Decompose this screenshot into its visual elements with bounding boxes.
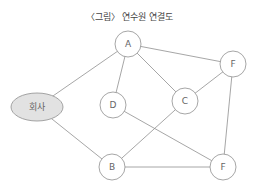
node-b: B [99,154,125,180]
node-c-label: C [182,96,188,106]
node-company-label: 회사 [29,102,46,112]
node-f-bottom-label: F [220,162,225,172]
node-a-label: A [125,39,132,49]
node-d-label: D [110,100,117,110]
edge-f-top-f-bottom [223,64,233,167]
node-d: D [100,92,126,118]
node-company: 회사 [11,93,63,121]
node-b-label: B [109,162,115,172]
node-f-top-label: F [230,59,235,69]
edges [37,44,233,167]
node-c: C [172,88,198,114]
node-a: A [115,31,141,57]
edge-d-f-bottom [113,105,223,167]
node-f-bottom: F [210,154,236,180]
edge-a-f-top [128,44,233,64]
connection-diagram: A F 회사 D C B F [0,0,259,191]
node-f-top: F [220,51,246,77]
